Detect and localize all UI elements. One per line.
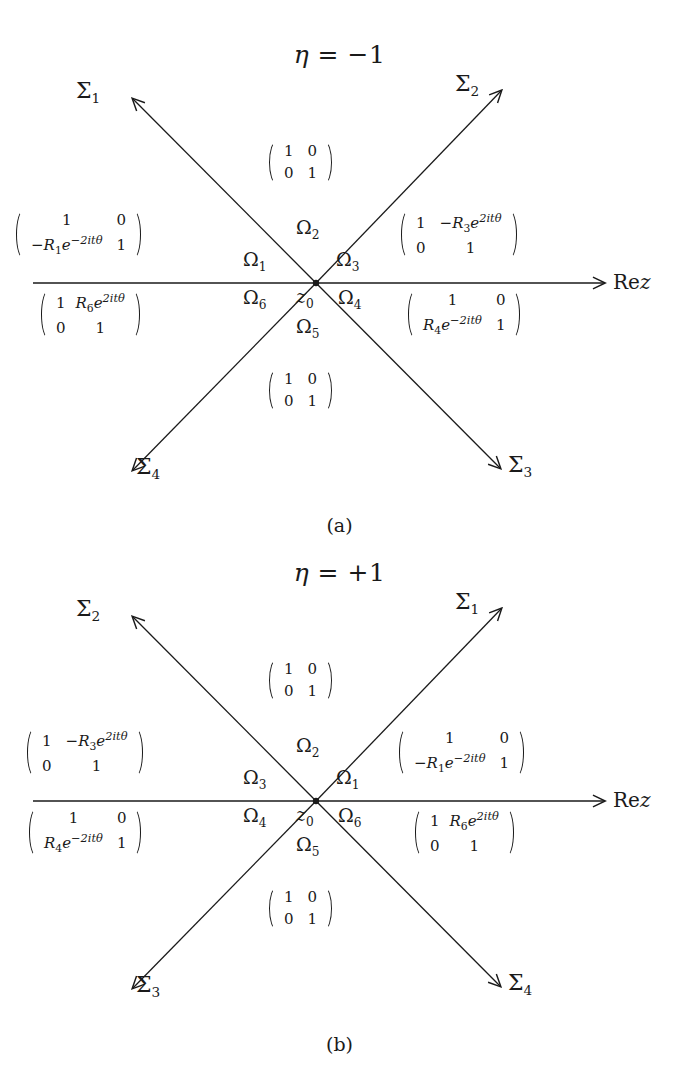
sign: −: [66, 732, 79, 750]
R-index: 1: [55, 244, 62, 257]
matrix-cell: 1: [284, 660, 294, 679]
matrix-cell: 1: [284, 370, 294, 389]
exponent: 2itθ: [479, 211, 501, 225]
matrix-cell: 1: [445, 729, 455, 748]
sigma-glyph: Σ: [508, 970, 524, 995]
matrix-cell: 1: [42, 732, 52, 751]
paren-right-icon: [512, 289, 523, 340]
center-point-label: z0: [296, 805, 314, 828]
omega-index: 4: [354, 298, 362, 312]
paren-right-icon: [516, 727, 527, 778]
jump-matrix-top: 1 0 0 1: [266, 658, 335, 703]
ray-sigma-up-left: [133, 617, 316, 801]
sigma-glyph: Σ: [455, 589, 471, 614]
center-point-marker: [313, 798, 319, 804]
matrix-cell: 0: [308, 142, 318, 161]
matrix-cell: 1: [430, 812, 440, 831]
R-symbol: R: [423, 316, 434, 334]
omega-label-upper-left: Ω1: [243, 250, 267, 273]
re-text: Re: [613, 788, 640, 812]
axis-label-rez: Rez: [613, 790, 650, 810]
paren-left-icon: [24, 727, 35, 778]
matrix-cell: 1: [448, 291, 458, 310]
sigma-label-down-left: Σ3: [136, 974, 160, 1000]
matrix-cell: −R3e2itθ: [440, 211, 502, 236]
matrix-cell: 1: [308, 682, 318, 701]
exponent: −2itθ: [71, 233, 103, 247]
R-symbol: R: [452, 214, 463, 232]
matrix-cell: 0: [500, 729, 510, 748]
e-symbol: e: [94, 294, 103, 312]
paren-right-icon: [324, 658, 335, 703]
jump-matrix-bottom: 1 0 0 1: [266, 886, 335, 931]
sign: −: [440, 214, 453, 232]
panel-b-caption: (b): [0, 1035, 679, 1054]
sigma-index: 2: [471, 83, 480, 99]
R-symbol: R: [78, 732, 89, 750]
omega-index: 3: [352, 260, 360, 274]
matrix-cell: 0: [42, 757, 52, 776]
omega-index: 2: [312, 746, 320, 760]
z-text: z: [640, 788, 651, 812]
matrix-cell: 0: [284, 164, 294, 183]
jump-matrix-lower-right: 1 0 R4e−2itθ 1: [405, 289, 523, 340]
omega-glyph: Ω: [243, 248, 259, 270]
omega-glyph: Ω: [296, 734, 312, 756]
matrix-cell: 0: [308, 888, 318, 907]
figure-panel-a: η = −1 Σ1 Σ2 Σ3 Σ4 Ω2 Ω1 Ω3 Ω6 Ω4 Ω5 z0 …: [0, 0, 679, 541]
jump-matrix-top: 1 0 0 1: [266, 140, 335, 185]
matrix-cell: 0: [117, 809, 127, 828]
R-symbol: R: [76, 294, 87, 312]
matrix-cell: 0: [284, 910, 294, 929]
matrix-cell: 0: [416, 239, 426, 258]
matrix-cell: 1: [469, 837, 479, 856]
z-text: z: [640, 270, 651, 294]
paren-left-icon: [26, 807, 37, 858]
omega-glyph: Ω: [336, 766, 352, 788]
exponent: 2itθ: [477, 809, 499, 823]
matrix-cell: 1: [117, 236, 127, 255]
R-symbol: R: [44, 834, 55, 852]
paren-left-icon: [405, 289, 416, 340]
omega-label-lower-right: Ω6: [338, 806, 362, 829]
omega-glyph: Ω: [296, 216, 312, 238]
omega-index: 3: [259, 778, 267, 792]
R-symbol: R: [427, 754, 438, 772]
sigma-glyph: Σ: [136, 454, 152, 479]
paren-left-icon: [412, 807, 423, 858]
sigma-label-down-left: Σ4: [136, 456, 160, 482]
omega-glyph: Ω: [296, 833, 312, 855]
omega-label-top: Ω2: [296, 736, 320, 759]
matrix-cell: R4e−2itθ: [44, 831, 103, 856]
eta-symbol: η: [294, 40, 309, 69]
omega-index: 1: [352, 778, 360, 792]
matrix-cell: 0: [430, 837, 440, 856]
axis-label-rez: Rez: [613, 272, 650, 292]
omega-label-upper-left: Ω3: [243, 768, 267, 791]
paren-left-icon: [398, 209, 409, 260]
z-index: 0: [306, 297, 314, 311]
exponent: 2itθ: [103, 291, 125, 305]
matrix-cell: 1: [92, 757, 102, 776]
omega-index: 6: [259, 298, 267, 312]
sigma-index: 4: [524, 982, 533, 998]
matrix-cell: 1: [95, 319, 105, 338]
matrix-cell: 0: [284, 682, 294, 701]
paren-right-icon: [324, 886, 335, 931]
omega-index: 5: [312, 845, 320, 859]
jump-matrix-lower-right: 1 R6e2itθ 0 1: [412, 807, 517, 858]
matrix-cell: 1: [69, 809, 79, 828]
sigma-index: 3: [524, 464, 533, 480]
matrix-cell: −R3e2itθ: [66, 729, 128, 754]
sigma-label-up-right: Σ2: [455, 73, 479, 99]
paren-left-icon: [396, 727, 407, 778]
sigma-glyph: Σ: [508, 452, 524, 477]
paren-left-icon: [13, 209, 24, 260]
sigma-label-up-left: Σ1: [76, 80, 100, 106]
paren-right-icon: [324, 368, 335, 413]
sigma-glyph: Σ: [455, 71, 471, 96]
jump-matrix-upper-left: 1 0 −R1e−2itθ 1: [13, 209, 144, 260]
exponent: 2itθ: [105, 729, 127, 743]
exponent: −2itθ: [454, 751, 486, 765]
exponent: −2itθ: [71, 831, 103, 845]
